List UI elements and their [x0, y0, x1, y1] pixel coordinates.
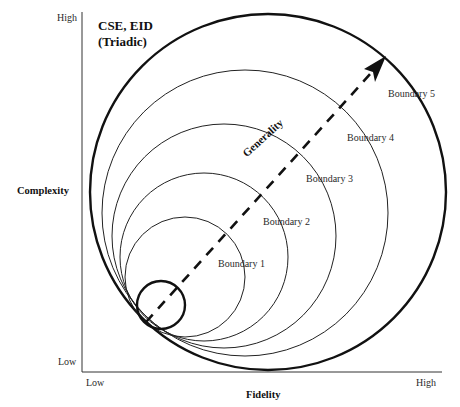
diagram-title-line1: CSE, EID: [98, 18, 153, 34]
boundary-5-circle: [90, 14, 446, 370]
boundary-1-label: Boundary 1: [218, 258, 265, 269]
boundary-5-label: Boundary 5: [388, 88, 435, 99]
boundary-3-label: Boundary 3: [306, 173, 353, 184]
boundary-4-label: Boundary 4: [347, 132, 394, 143]
generality-arrow-line: [146, 72, 372, 322]
diagram-title-line2: (Triadic): [98, 34, 147, 50]
boundary-2-label: Boundary 2: [263, 216, 310, 227]
x-axis-low-label: Low: [86, 377, 104, 388]
y-axis-high-label: High: [57, 12, 77, 23]
x-axis-title: Fidelity: [246, 389, 280, 400]
y-axis-low-label: Low: [58, 356, 76, 367]
x-axis-high-label: High: [416, 377, 436, 388]
y-axis-title: Complexity: [17, 185, 69, 196]
diagram-canvas: [0, 0, 460, 407]
